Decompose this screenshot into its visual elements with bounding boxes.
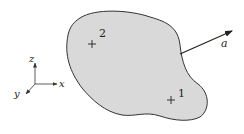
point-1-label: 1	[178, 87, 185, 100]
point-2-label: 2	[99, 27, 106, 40]
vector-a-label: a	[221, 37, 228, 50]
rigid-body-region	[67, 11, 208, 120]
coordinate-axes	[26, 63, 57, 94]
diagram-canvas: 2 1 a z x y	[0, 0, 244, 134]
x-axis-label: x	[59, 78, 65, 89]
z-axis-label: z	[28, 53, 35, 64]
y-axis-label: y	[13, 88, 20, 99]
